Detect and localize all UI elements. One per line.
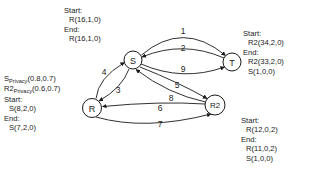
annotation-left: SPrivacy(0.8,0.7) R2Privacy(0.6,0.7) Sta… — [4, 74, 60, 132]
diagram-canvas: S T R R2 1 2 9 4 3 5 8 6 7 Start: R(16,1… — [0, 0, 315, 178]
edge-label-9: 9 — [181, 64, 186, 74]
node-t-label: T — [229, 58, 235, 68]
left-privacy-r2: R2Privacy(0.6,0.7) — [4, 84, 60, 94]
left-start-value: S(8,2,0) — [4, 104, 60, 113]
node-s-label: S — [130, 56, 136, 66]
br-end-value-1: R(11,0,2) — [241, 144, 278, 153]
tr-end-label: End: — [243, 48, 284, 57]
br-start-label: Start: — [241, 116, 278, 125]
annotation-top-left: Start: R(16,1,0) End: R(16,1,0) — [64, 6, 101, 44]
left-privacy-s-value: (0.8,0.7) — [27, 74, 55, 83]
edge-label-1: 1 — [181, 26, 186, 36]
edge-label-8: 8 — [169, 93, 174, 103]
edge-6-r2-to-r — [103, 103, 206, 107]
tr-start-label: Start: — [243, 29, 284, 38]
br-end-label: End: — [241, 135, 278, 144]
annotation-bottom-right: Start: R(12,0,2) End: R(11,0,2) S(1,0,0) — [241, 116, 278, 163]
left-privacy-r2-sub: Privacy — [14, 88, 32, 94]
left-privacy-r2-value: (0.6,0.7) — [32, 84, 60, 93]
br-end-value-2: S(1,0,0) — [241, 154, 278, 163]
left-start-label: Start: — [4, 95, 60, 104]
br-start-value: R(12,0,2) — [241, 125, 278, 134]
edge-5-s-to-r2 — [140, 67, 207, 99]
tl-start-label: Start: — [64, 6, 101, 15]
tr-end-value-1: R2(33,2,0) — [243, 57, 284, 66]
annotation-top-right: Start: R2(34,2,0) End: R2(33,2,0) S(1,0,… — [243, 29, 284, 76]
left-end-label: End: — [4, 114, 60, 123]
left-privacy-r2-name: R2 — [4, 84, 14, 93]
tl-end-value: R(16,1,0) — [64, 34, 101, 43]
tr-end-value-2: S(1,0,0) — [243, 67, 284, 76]
edge-label-5: 5 — [175, 80, 180, 90]
edge-label-7: 7 — [158, 119, 163, 129]
tl-end-label: End: — [64, 25, 101, 34]
edge-label-4: 4 — [102, 67, 107, 77]
edge-7-r-to-r2 — [96, 114, 211, 123]
node-r2-label: R2 — [210, 101, 221, 110]
tl-start-value: R(16,1,0) — [64, 15, 101, 24]
left-privacy-s: SPrivacy(0.8,0.7) — [4, 74, 60, 84]
edge-label-2: 2 — [181, 43, 186, 53]
node-r-label: R — [89, 104, 96, 114]
left-privacy-s-sub: Privacy — [9, 78, 27, 84]
tr-start-value: R2(34,2,0) — [243, 38, 284, 47]
left-end-value: S(7,2,0) — [4, 123, 60, 132]
edge-label-3: 3 — [116, 85, 121, 95]
edge-label-6: 6 — [158, 103, 163, 113]
